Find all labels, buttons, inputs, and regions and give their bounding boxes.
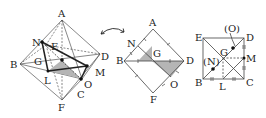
label-G: G: [153, 48, 161, 59]
label-C: C: [77, 89, 85, 100]
label-B: B: [195, 77, 202, 88]
label-O: O: [170, 79, 178, 90]
label-O: O: [84, 79, 92, 90]
label-O: (O): [224, 23, 240, 34]
label-D: D: [186, 55, 194, 66]
square-figure: E (O) D G (N) M B L C: [195, 23, 256, 92]
label-M: M: [95, 67, 105, 78]
label-L: L: [219, 81, 226, 92]
label-C: C: [246, 77, 254, 88]
label-N: N: [32, 37, 41, 48]
label-M: M: [246, 53, 256, 64]
label-B: B: [10, 59, 17, 70]
label-F: F: [150, 94, 157, 105]
label-D: D: [101, 51, 109, 62]
label-E: E: [51, 41, 58, 52]
label-B: B: [116, 55, 123, 66]
label-L: L: [44, 75, 51, 86]
label-N: (N): [203, 56, 220, 67]
label-N: N: [127, 38, 136, 49]
label-E: E: [195, 32, 202, 43]
label-A: A: [148, 17, 157, 28]
label-D: D: [246, 32, 254, 43]
label-F: F: [58, 102, 65, 113]
rhombus-figure: A N B G D O F: [116, 17, 194, 105]
label-G: G: [34, 56, 42, 67]
octahedron-figure: A N E D B G M L O C F: [10, 8, 109, 113]
label-G: G: [220, 47, 228, 58]
double-headed-curved-arrow-icon: [101, 28, 124, 34]
label-A: A: [57, 8, 66, 19]
geometry-diagram: A N E D B G M L O C F: [0, 0, 266, 118]
